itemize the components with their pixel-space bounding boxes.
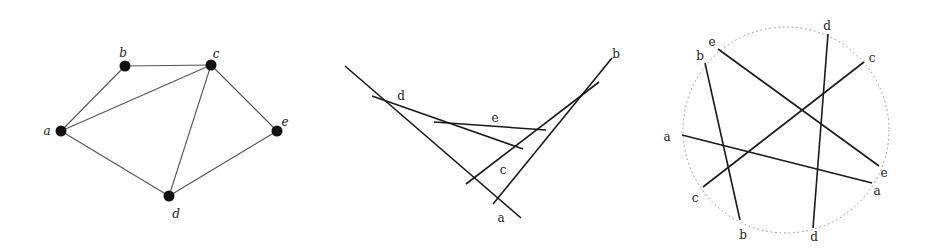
graph-node-d	[164, 191, 175, 202]
diagram-canvas: abcde abcde ebdcaeacbd	[0, 0, 933, 249]
chord-c	[703, 62, 864, 187]
segment-c	[466, 82, 599, 184]
segment-label: b	[612, 47, 620, 61]
chord-a	[682, 135, 872, 183]
segment-b	[493, 58, 612, 204]
graph-edge-bc	[125, 65, 211, 66]
graph-node-a	[56, 126, 67, 137]
graph-node-label: a	[43, 124, 50, 138]
segment-panel: abcde	[345, 47, 620, 225]
chord-d	[813, 34, 828, 228]
graph-panel: abcde	[43, 46, 288, 221]
circle-chord-panel: ebdcaeacbd	[663, 19, 889, 244]
chord-endpoint-label: a	[663, 130, 670, 144]
chord-endpoint-label: a	[873, 184, 880, 198]
chord-e	[718, 49, 879, 166]
segment-a	[345, 66, 521, 218]
segment-label: d	[397, 89, 405, 103]
graph-edge-ce	[211, 65, 277, 131]
chord-endpoint-label: b	[739, 228, 747, 242]
graph-edge-cd	[169, 65, 211, 196]
chord-endpoint-label: c	[692, 191, 699, 205]
chord-endpoint-label: b	[696, 49, 704, 63]
graph-edge-ab	[61, 66, 125, 131]
graph-edge-ad	[61, 131, 169, 196]
graph-edge-de	[169, 131, 277, 196]
graph-node-label: e	[281, 115, 288, 129]
chord-endpoint-label: d	[823, 19, 831, 33]
graph-node-label: b	[119, 46, 127, 60]
graph-node-label: c	[213, 47, 220, 61]
graph-node-b	[120, 61, 131, 72]
segment-label: e	[491, 111, 498, 125]
graph-node-c	[206, 60, 217, 71]
dotted-circle	[683, 27, 889, 233]
chord-endpoint-label: e	[880, 166, 887, 180]
segment-e	[434, 122, 546, 130]
graph-node-label: d	[172, 207, 180, 221]
segment-label: a	[497, 211, 504, 225]
segment-label: c	[500, 163, 507, 177]
chord-endpoint-label: d	[810, 230, 818, 244]
chord-endpoint-label: c	[869, 51, 876, 65]
graph-edge-ac	[61, 65, 211, 131]
chord-endpoint-label: e	[708, 35, 715, 49]
